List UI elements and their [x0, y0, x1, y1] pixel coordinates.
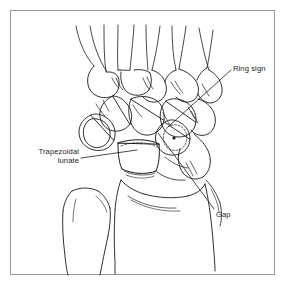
- annotation-label-line-2: lunate: [17, 156, 79, 165]
- distal-radius-group: [114, 180, 215, 274]
- trapezium-bone-group: [79, 114, 115, 151]
- scaphoid-ring-bone: [155, 120, 190, 155]
- annotation-label-trapezoidal-lunate: Trapezoidal lunate: [17, 147, 79, 165]
- annotation-label-line-1: Trapezoidal: [17, 147, 79, 156]
- leader-line-trapezoidal-lunate: [81, 150, 137, 158]
- metacarpal-shafts-group: [76, 25, 213, 72]
- screenshot-root: Ring sign Trapezoidal lunate Gap: [0, 0, 287, 284]
- shading-detail-group: [96, 77, 209, 176]
- ulna-styloid-group: [63, 188, 111, 275]
- wrist-illustration: [0, 0, 287, 284]
- trapezoidal-lunate-bone: [118, 140, 159, 178]
- annotation-label-gap: Gap: [216, 210, 231, 219]
- distal-carpal-row-group: [100, 96, 216, 137]
- triquetrum-hamate-group: [157, 134, 210, 180]
- annotation-label-ring-sign: Ring sign: [233, 64, 266, 73]
